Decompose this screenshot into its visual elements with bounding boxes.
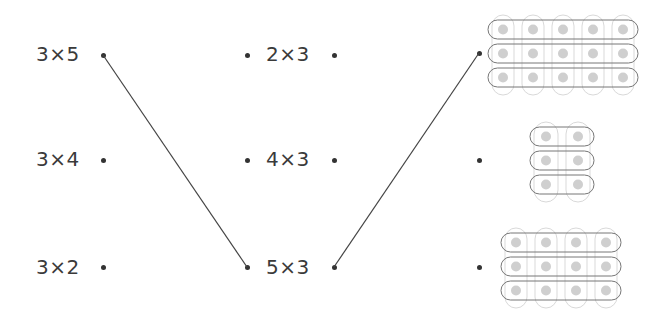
bead (618, 49, 628, 59)
bead (541, 262, 551, 272)
row-group-outline (530, 151, 594, 170)
bead (558, 73, 568, 83)
bead (571, 238, 581, 248)
bead (498, 49, 508, 59)
bead (558, 25, 568, 35)
bead (528, 25, 538, 35)
bead (571, 286, 581, 296)
bead (528, 73, 538, 83)
bead-array (530, 122, 594, 202)
bead (498, 25, 508, 35)
bead (601, 262, 611, 272)
bead (511, 262, 521, 272)
bead (601, 286, 611, 296)
bead (558, 49, 568, 59)
bead (541, 286, 551, 296)
bead (588, 73, 598, 83)
bead-array (488, 15, 638, 95)
bead (541, 180, 551, 190)
bead (618, 25, 628, 35)
bead-array (501, 228, 621, 308)
bead (541, 156, 551, 166)
bead (571, 262, 581, 272)
bead (573, 156, 583, 166)
bead (601, 238, 611, 248)
bead (588, 25, 598, 35)
bead (498, 73, 508, 83)
bead (541, 132, 551, 142)
row-group-outline (530, 127, 594, 146)
bead (588, 49, 598, 59)
bead (511, 286, 521, 296)
bead (528, 49, 538, 59)
bead (573, 132, 583, 142)
row-group-outline (530, 175, 594, 194)
connection-line[interactable] (334, 53, 479, 267)
connection-line[interactable] (103, 55, 247, 267)
bead (618, 73, 628, 83)
bead (573, 180, 583, 190)
diagram-canvas (0, 0, 666, 318)
bead (541, 238, 551, 248)
bead (511, 238, 521, 248)
